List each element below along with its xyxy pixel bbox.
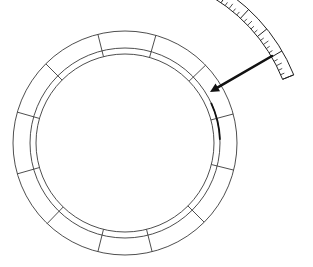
segment-divider — [47, 207, 63, 224]
ring-diagram — [0, 0, 313, 267]
segment-divider — [188, 206, 204, 222]
segment-divider — [46, 64, 62, 80]
segment-divider — [150, 35, 156, 57]
graduated-scale — [200, 0, 294, 79]
pointer-arrow-icon — [210, 56, 272, 92]
segment-divider — [98, 229, 104, 251]
segmented-ring — [13, 31, 237, 255]
segment-divider — [17, 112, 39, 118]
arrow-shaft — [218, 56, 272, 87]
segment-divider — [147, 229, 153, 251]
segment-divider — [17, 168, 39, 174]
segment-divider — [98, 34, 104, 56]
segment-divider — [189, 65, 206, 81]
segment-divider — [211, 165, 233, 171]
segment-divider — [211, 114, 233, 120]
inner-ring-line — [36, 54, 214, 232]
highlighted-arc — [211, 103, 220, 140]
